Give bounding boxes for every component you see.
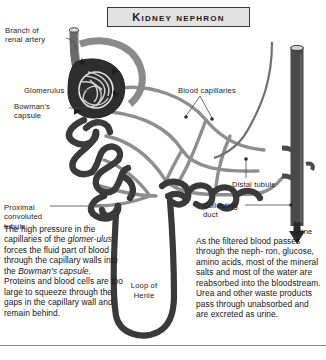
label-loop-of-henle: Loop of Henle xyxy=(124,281,164,300)
left-line-3: forces the fluid part xyxy=(4,245,76,255)
italic-glomerulus-b: ulus xyxy=(96,234,112,244)
italic-glomerulus-a: glomer- xyxy=(68,234,97,244)
bottom-divider xyxy=(0,345,326,346)
left-line-6: . xyxy=(89,266,91,276)
left-line-1: The high pressure in the xyxy=(4,224,96,234)
right-line-5: and most of the water xyxy=(216,267,298,277)
collecting-duct xyxy=(282,45,313,226)
right-line-8: other waste products xyxy=(233,288,312,298)
label-distal-tubule: Distal tubule xyxy=(232,180,282,189)
explanation-text-left: The high pressure in the capillaries of … xyxy=(4,224,124,318)
efferent-vessel xyxy=(214,42,272,158)
left-line-2: capillaries of the xyxy=(4,234,68,244)
nephron-diagram-page: Kidney nephron xyxy=(0,0,326,360)
label-collecting-duct: Collecting duct xyxy=(203,201,243,220)
right-line-9: pass through unabsorbed xyxy=(196,299,292,309)
italic-bowmans-capsule: Bowman's capsule xyxy=(18,266,88,276)
label-urine: Urine xyxy=(288,227,318,236)
label-glomerulus: Glomerulus xyxy=(24,86,78,95)
label-blood-capillaries: Blood capillaries xyxy=(178,86,242,95)
explanation-text-right: As the filtered blood passes through the… xyxy=(196,236,322,320)
right-line-1: As the filtered blood xyxy=(196,236,271,246)
label-branch-of-renal-artery: Branch of renal artery xyxy=(5,26,65,45)
left-line-7: Proteins and blood cells xyxy=(4,276,94,286)
label-bowmans-capsule: Bowman's capsule xyxy=(14,102,68,121)
left-line-11: behind. xyxy=(32,308,60,318)
